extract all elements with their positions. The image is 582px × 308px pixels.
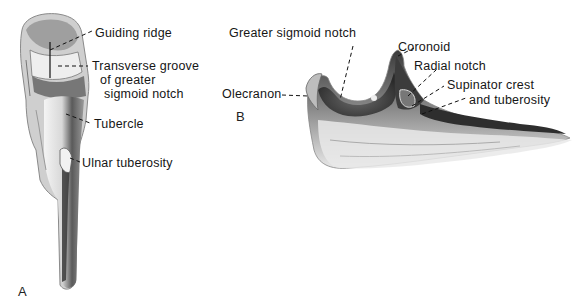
label-transverse-groove-2: of greater xyxy=(100,73,156,87)
panel-letter-b: B xyxy=(236,109,245,124)
label-tubercle: Tubercle xyxy=(94,117,144,131)
label-coronoid: Coronoid xyxy=(398,40,450,54)
label-transverse-groove-1: Transverse groove xyxy=(92,59,199,73)
label-supinator-crest: Supinator crest xyxy=(447,78,534,92)
label-olecranon: Olecranon xyxy=(222,87,281,101)
label-guiding-ridge: Guiding ridge xyxy=(95,26,172,40)
panel-a-bone xyxy=(21,14,89,290)
panel-letter-a: A xyxy=(18,284,27,299)
ulna-illustration xyxy=(0,0,582,308)
label-transverse-groove-3: sigmoid notch xyxy=(104,87,184,101)
label-ulnar-tuberosity: Ulnar tuberosity xyxy=(82,156,173,170)
label-radial-notch: Radial notch xyxy=(414,59,486,73)
label-greater-sigmoid-notch: Greater sigmoid notch xyxy=(229,26,356,40)
label-and-tuberosity: and tuberosity xyxy=(469,93,550,107)
